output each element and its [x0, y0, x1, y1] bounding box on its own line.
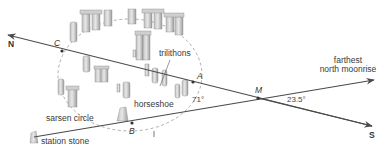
- angle-71-label: 71°: [192, 96, 204, 104]
- point-B: [130, 121, 133, 124]
- point-B-label: B: [129, 127, 135, 136]
- point-M-label: M: [255, 86, 262, 95]
- point-A-label: A: [197, 72, 203, 81]
- diagram-canvas: [0, 0, 378, 153]
- north-label: N: [8, 40, 14, 49]
- point-M: [256, 96, 259, 99]
- moonrise-label: farthest north moonrise: [318, 56, 378, 73]
- point-C: [60, 49, 63, 52]
- point-C-label: C: [54, 39, 60, 48]
- moonrise-label-line2: north moonrise: [318, 65, 378, 74]
- stonehenge-diagram: N S C A M B 71° 23.5° trilithons horsesh…: [0, 0, 378, 153]
- south-arrow-line: [258, 98, 372, 126]
- horseshoe-label: horseshoe: [134, 100, 174, 109]
- south-label: S: [369, 131, 375, 140]
- moonrise-line: [34, 80, 374, 137]
- point-A: [191, 80, 194, 83]
- trilithons-label: trilithons: [159, 49, 191, 58]
- station-stone-label: station stone: [41, 137, 89, 146]
- angle-23-5-label: 23.5°: [287, 96, 306, 104]
- sarsen-circle-label: sarsen circle: [46, 114, 94, 123]
